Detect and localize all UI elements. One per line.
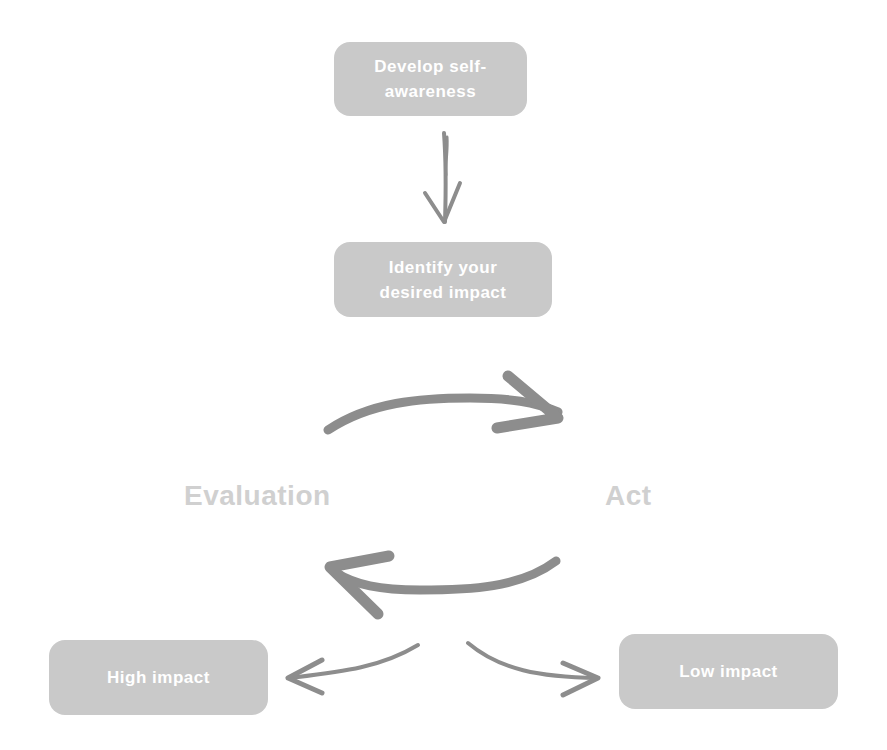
node-label-line2: desired impact (380, 280, 507, 305)
cycle-label-act: Act (605, 480, 652, 512)
down-arrow-icon (425, 133, 460, 222)
node-develop-self-awareness: Develop self- awareness (334, 42, 527, 116)
node-label-line2: awareness (385, 79, 476, 104)
node-label: High impact (107, 665, 210, 690)
arrow-to-low-impact-icon (468, 643, 598, 695)
curved-left-arrow-icon (330, 556, 556, 614)
node-label-line1: Identify your (389, 255, 498, 280)
curved-right-arrow-icon (328, 376, 558, 430)
cycle-label-evaluation: Evaluation (184, 480, 331, 512)
node-label-line1: Develop self- (374, 54, 486, 79)
node-high-impact: High impact (49, 640, 268, 715)
arrow-to-high-impact-icon (288, 645, 418, 693)
node-low-impact: Low impact (619, 634, 838, 709)
node-label: Low impact (679, 659, 778, 684)
node-identify-desired-impact: Identify your desired impact (334, 242, 552, 317)
